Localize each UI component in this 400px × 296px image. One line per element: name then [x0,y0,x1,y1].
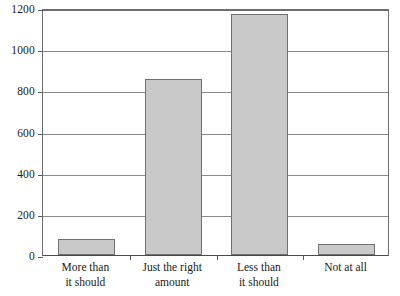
y-tick-label: 800 [17,86,35,98]
x-axis-label-line: it should [42,275,129,290]
gridline-800 [43,92,388,93]
x-axis-label: Just the rightamount [129,260,216,289]
bar [58,239,115,255]
y-tick-label: 1000 [11,45,35,57]
y-tick-label: 0 [29,251,35,263]
y-tick-mark [38,10,43,11]
y-tick-mark [38,175,43,176]
bar [231,14,288,255]
gridline-600 [43,134,388,135]
y-tick-mark [38,92,43,93]
y-tick-label: 600 [17,128,35,140]
x-axis-label-line: Just the right [129,260,216,275]
x-axis-label-line: amount [129,275,216,290]
y-tick-label: 200 [17,210,35,222]
plot-area: 020040060080010001200 [42,9,389,256]
y-tick-mark [38,134,43,135]
x-axis-labels: More thanit shouldJust the rightamountLe… [42,260,389,296]
y-tick-mark [38,216,43,217]
x-axis-label-line: More than [42,260,129,275]
gridline-1000 [43,51,388,52]
y-tick-label: 400 [17,169,35,181]
x-axis-label: Less thanit should [216,260,303,289]
x-axis-label: More thanit should [42,260,129,289]
x-axis-label-line: it should [216,275,303,290]
x-axis-label-line: Not at all [302,260,389,275]
y-tick-label: 1200 [11,4,35,16]
y-tick-mark [38,51,43,52]
bar [318,244,375,255]
x-axis-label-line: Less than [216,260,303,275]
gridline-200 [43,216,388,217]
bar [145,79,202,255]
gridline-400 [43,175,388,176]
x-axis-label: Not at all [302,260,389,275]
bar-chart-figure: 020040060080010001200 More thanit should… [0,0,400,296]
gridline-1200 [43,10,388,11]
y-tick-mark [38,257,43,258]
